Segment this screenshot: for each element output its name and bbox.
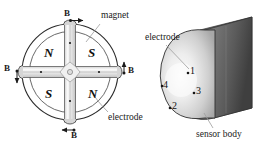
callout-sensor-body: sensor body [196,130,242,140]
pole-label-lower-right: N [88,87,97,100]
electrode-number-4: 4 [163,80,168,90]
field-arrow-right [123,62,126,75]
field-arrow-top [69,19,83,22]
pole-label-upper-right: S [88,46,95,59]
callout-magnet: magnet [101,11,129,21]
callout-electrode-right: electrode [145,33,180,43]
field-label-top: B [64,9,70,18]
pole-label-upper-left: N [44,46,53,59]
electrode-number-1: 1 [190,66,195,76]
electrode-number-2: 2 [172,101,177,111]
electrode-number-3: 3 [196,86,201,96]
callout-electrode-left: electrode [108,113,143,123]
field-label-right: B [128,66,134,75]
figure-container: B B B B N S S N magnet electrode electro… [0,0,259,147]
field-label-bottom: B [71,131,77,140]
field-label-left: B [4,64,10,73]
pole-label-lower-left: S [45,87,52,100]
field-arrow-left [16,70,19,84]
